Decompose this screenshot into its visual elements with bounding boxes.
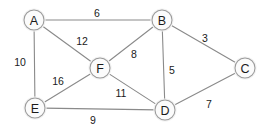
node-label-f: F: [96, 62, 104, 76]
graph-edge-c-d: [173, 72, 237, 106]
graph-node-c: C: [233, 56, 256, 79]
edge-weight-a-e: 10: [14, 56, 26, 68]
edge-weight-b-d: 5: [169, 64, 175, 76]
node-label-e: E: [31, 102, 39, 116]
graph-edge-b-d: [162, 29, 164, 101]
graph-edge-a-e: [34, 29, 35, 99]
graph-node-f: F: [88, 56, 111, 79]
edge-weight-b-c: 3: [202, 32, 208, 44]
graph-node-b: B: [150, 8, 173, 31]
node-label-d: D: [160, 104, 169, 118]
edge-weight-a-b: 6: [94, 7, 100, 19]
edge-weight-e-d: 9: [90, 114, 96, 126]
graph-diagram: ABCFDE 61210835161197: [0, 0, 270, 134]
nodes-layer: ABCFDE: [22, 8, 256, 121]
edge-weight-a-f: 12: [76, 35, 88, 47]
graph-node-d: D: [153, 98, 176, 121]
graph-edge-f-e: [43, 73, 93, 104]
edge-weight-c-d: 7: [206, 98, 212, 110]
edge-weight-b-f: 8: [131, 48, 137, 60]
graph-canvas: ABCFDE 61210835161197: [0, 0, 270, 134]
node-label-c: C: [240, 62, 249, 76]
graph-edge-e-d: [44, 108, 156, 110]
graph-node-a: A: [22, 8, 45, 31]
edge-weight-f-e: 16: [52, 75, 64, 87]
node-label-b: B: [158, 14, 166, 28]
graph-node-e: E: [23, 96, 46, 119]
node-label-a: A: [30, 14, 39, 28]
edge-weight-f-d: 11: [116, 87, 127, 99]
graph-edge-b-c: [170, 25, 237, 64]
